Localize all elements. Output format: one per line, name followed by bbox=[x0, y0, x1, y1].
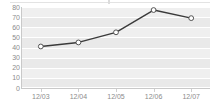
x-tick-label: 12/06 bbox=[137, 93, 171, 101]
line-chart: 01020304050607080 12/0312/0412/0512/0612… bbox=[0, 0, 220, 107]
x-tick-mark bbox=[191, 89, 192, 92]
x-tick-mark bbox=[154, 89, 155, 92]
x-tick-label: 12/03 bbox=[24, 93, 58, 101]
x-tick-mark bbox=[41, 89, 42, 92]
x-tick-label: 12/05 bbox=[99, 93, 133, 101]
x-tick-mark bbox=[78, 89, 79, 92]
x-axis-tick-labels: 12/0312/0412/0512/0612/07 bbox=[0, 0, 220, 107]
x-tick-label: 12/04 bbox=[61, 93, 95, 101]
x-tick-label: 12/07 bbox=[174, 93, 208, 101]
x-tick-mark bbox=[116, 89, 117, 92]
